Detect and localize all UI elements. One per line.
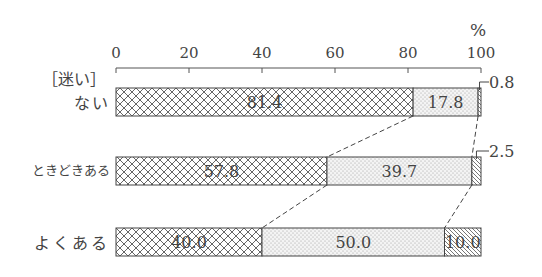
- row-label-tokidoki: ときどきある: [32, 160, 110, 179]
- segment-value-label: 10.0: [445, 233, 481, 252]
- bar-segment: [472, 157, 481, 185]
- x-tick-label: 40: [252, 44, 271, 62]
- x-tick-label: 80: [398, 44, 417, 62]
- segment-value-label: 57.8: [204, 162, 240, 181]
- segment-value-label: 81.4: [247, 93, 283, 112]
- segment-value-label: 50.0: [335, 233, 371, 252]
- segment-value-label: 40.0: [171, 233, 207, 252]
- callout-label: 2.5: [489, 142, 514, 161]
- segment-value-label: 39.7: [382, 162, 418, 181]
- bars: [116, 88, 481, 256]
- x-tick-label: 60: [325, 44, 344, 62]
- x-tick-label: 100: [467, 44, 496, 62]
- callout-label: 0.8: [489, 73, 514, 92]
- x-axis: 020406080100: [111, 44, 495, 73]
- percent-unit-label: %: [470, 20, 486, 40]
- segment-value-label: 17.8: [428, 93, 464, 112]
- row-label-yoku: よくある: [34, 230, 110, 254]
- row-header: ［迷い］: [42, 66, 106, 90]
- x-tick-label: 20: [179, 44, 198, 62]
- row-label-nai: ない: [74, 90, 110, 114]
- x-tick-label: 0: [111, 44, 121, 62]
- bar-segment: [478, 88, 481, 116]
